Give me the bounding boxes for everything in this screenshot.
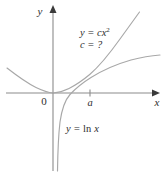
log-equation-y: y =: [65, 123, 83, 134]
y-axis-arrow-icon: [50, 5, 57, 13]
y-axis-label: y: [37, 5, 43, 17]
log-equation-label: y = lnx: [65, 123, 99, 134]
log-equation-fn: ln: [83, 123, 92, 134]
graph-canvas: y x 0 a y = cx2 c = ? y = lnx: [0, 0, 168, 173]
parabola-equation-label: y = cx2: [79, 26, 110, 38]
math-figure: y x 0 a y = cx2 c = ? y = lnx: [0, 0, 168, 173]
x-axis-label: x: [154, 96, 160, 108]
log-equation-arg: x: [93, 123, 99, 134]
parabola-equation-text: y = cx: [79, 27, 107, 38]
curve-parabola: [7, 12, 140, 93]
parabola-equation-exponent: 2: [106, 26, 110, 34]
curve-log: [58, 55, 161, 171]
origin-label: 0: [41, 95, 47, 107]
x-tick-label-a: a: [87, 97, 92, 108]
parabola-unknown-label: c = ?: [80, 39, 103, 50]
